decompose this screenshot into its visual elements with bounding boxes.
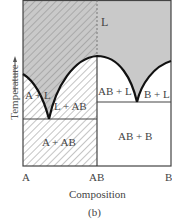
x-tick-b: B — [165, 172, 172, 183]
region-label-l-plus-ab: L + AB — [54, 101, 87, 112]
region-label-a-plus-ab: A + AB — [42, 137, 76, 148]
region-label-b-plus-l: B + L — [144, 89, 170, 100]
region-label-ab-plus-l: AB + L — [98, 86, 132, 97]
y-axis-label: Temperature — [8, 57, 20, 127]
region-label-ab-plus-b: AB + B — [118, 131, 152, 142]
x-tick-ab: AB — [89, 172, 104, 183]
region-label-l: L — [101, 16, 108, 28]
figure-caption: (b) — [88, 207, 101, 218]
x-tick-a: A — [22, 172, 30, 183]
region-label-a-plus-l: A + L — [25, 90, 51, 101]
x-axis-label: Composition — [69, 189, 126, 200]
